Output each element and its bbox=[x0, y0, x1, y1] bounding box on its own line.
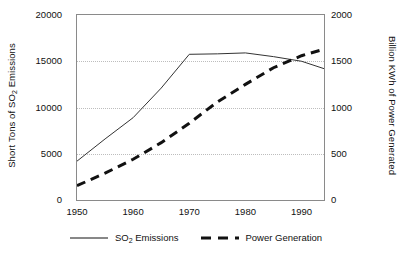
legend-item-so2-emissions[interactable]: SO2 Emissions bbox=[70, 232, 179, 243]
left-axis-title-post: Emissions bbox=[6, 43, 17, 90]
left-axis-title-subscript: 2 bbox=[11, 90, 18, 94]
right-tick-500: 500 bbox=[331, 148, 373, 159]
x-tick-1970: 1970 bbox=[169, 206, 209, 217]
left-tick-5000: 5000 bbox=[2, 148, 62, 159]
chart-legend: SO2 EmissionsPower Generation bbox=[0, 232, 392, 243]
right-tick-1500: 1500 bbox=[331, 55, 373, 66]
right-tick-0: 0 bbox=[331, 194, 373, 205]
left-tick-10000: 10000 bbox=[2, 102, 62, 113]
x-tick-1990: 1990 bbox=[282, 206, 322, 217]
right-tick-2000: 2000 bbox=[331, 9, 373, 20]
right-axis-title: Billion KWh of Power Generated bbox=[387, 16, 398, 196]
x-tick-1960: 1960 bbox=[113, 206, 153, 217]
series-lines bbox=[77, 15, 324, 200]
legend-item-power-generation[interactable]: Power Generation bbox=[201, 232, 323, 243]
left-tick-20000: 20000 bbox=[2, 9, 62, 20]
x-tick-1980: 1980 bbox=[225, 206, 265, 217]
legend-swatch-dashed-icon bbox=[201, 233, 239, 243]
right-tick-1000: 1000 bbox=[331, 102, 373, 113]
plot-area bbox=[76, 14, 325, 201]
legend-swatch-solid-icon bbox=[70, 233, 108, 243]
left-tick-0: 0 bbox=[2, 194, 62, 205]
series-line-power-generation bbox=[77, 49, 324, 185]
x-tick-1950: 1950 bbox=[57, 206, 97, 217]
left-tick-15000: 15000 bbox=[2, 55, 62, 66]
series-line-so2-emissions bbox=[77, 53, 324, 161]
legend-label: SO2 Emissions bbox=[115, 232, 179, 243]
legend-label: Power Generation bbox=[246, 232, 323, 243]
